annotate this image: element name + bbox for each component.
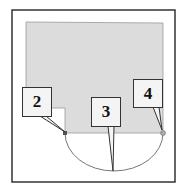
label-box-3: 3 (91, 97, 121, 127)
point-4 (161, 131, 166, 136)
label-box-4: 4 (133, 79, 163, 108)
label-box-2: 2 (22, 87, 52, 117)
